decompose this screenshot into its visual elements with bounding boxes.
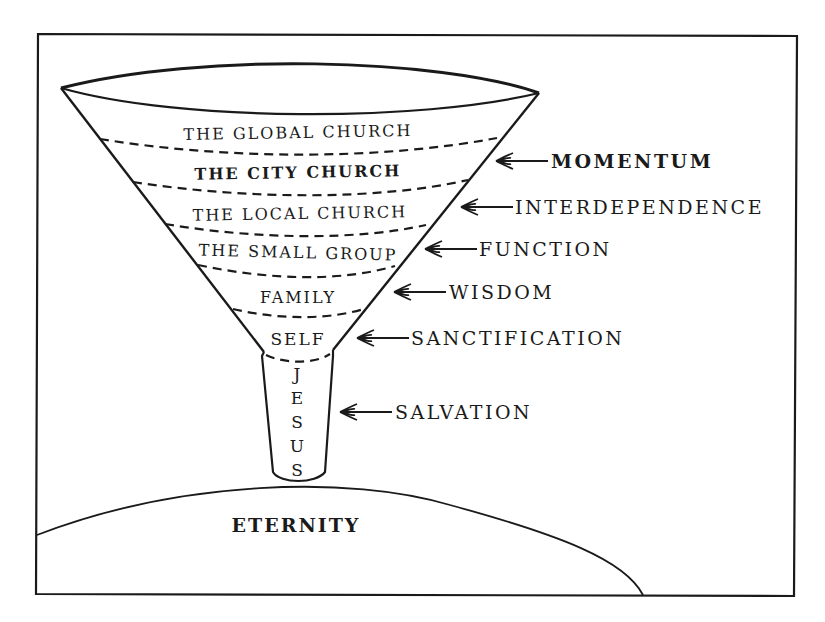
frame-border (36, 34, 797, 596)
side-label-sanctification: SANCTIFICATION (411, 327, 624, 349)
arrow-left-icon (340, 404, 392, 420)
divider-family-self (233, 308, 367, 317)
funnel-rim-top (61, 64, 539, 93)
side-label-function: FUNCTION (479, 238, 612, 260)
side-item-sanctification: SANCTIFICATION (357, 327, 624, 349)
layer-label-small-group: THE SMALL GROUP (199, 240, 398, 264)
side-item-salvation: SALVATION (340, 401, 532, 423)
funnel-diagram: THE GLOBAL CHURCH THE CITY CHURCH THE LO… (0, 0, 825, 622)
arrow-left-icon (425, 241, 477, 257)
tube-label-jesus: J E S U S (290, 364, 306, 480)
layer-label-self: SELF (270, 329, 325, 349)
arrow-left-icon (461, 199, 513, 215)
side-item-wisdom: WISDOM (394, 281, 554, 303)
side-item-function: FUNCTION (425, 238, 612, 260)
divider-self-jesus (266, 354, 330, 362)
eternity-arc (37, 487, 643, 595)
side-item-interdependence: INTERDEPENDENCE (461, 196, 764, 218)
tube-letter: S (291, 412, 305, 432)
side-label-momentum: MOMENTUM (551, 150, 713, 172)
layer-label-family: FAMILY (260, 288, 336, 307)
side-label-wisdom: WISDOM (449, 281, 554, 303)
tube-letter: U (290, 436, 306, 456)
base-label-eternity: ETERNITY (232, 514, 361, 536)
arrow-left-icon (496, 153, 548, 169)
divider-smallgroup-family (198, 265, 395, 277)
divider-local-smallgroup (165, 224, 426, 236)
funnel-rim-bottom (61, 88, 539, 114)
layer-label-city-church: THE CITY CHURCH (194, 161, 401, 184)
layer-label-local-church: THE LOCAL CHURCH (192, 202, 407, 225)
tube-letter: S (291, 460, 305, 480)
side-label-interdependence: INTERDEPENDENCE (515, 196, 764, 218)
arrow-left-icon (357, 330, 409, 346)
divider-city-local (133, 180, 468, 195)
tube-letter: J (292, 364, 303, 384)
side-item-momentum: MOMENTUM (496, 150, 713, 172)
side-label-salvation: SALVATION (395, 401, 532, 423)
diagram-canvas: THE GLOBAL CHURCH THE CITY CHURCH THE LO… (0, 0, 825, 622)
tube-letter: E (291, 388, 305, 408)
arrow-left-icon (394, 284, 446, 300)
layer-label-global-church: THE GLOBAL CHURCH (183, 121, 412, 144)
